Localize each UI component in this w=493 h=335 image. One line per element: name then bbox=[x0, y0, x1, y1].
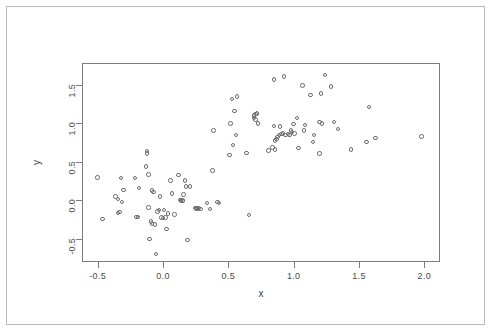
data-point bbox=[247, 213, 251, 217]
data-point bbox=[147, 237, 151, 241]
data-point bbox=[292, 131, 296, 135]
data-point bbox=[244, 151, 248, 155]
data-point bbox=[317, 151, 321, 155]
data-point bbox=[198, 207, 202, 211]
data-point bbox=[291, 122, 295, 126]
data-point bbox=[163, 215, 167, 219]
data-point bbox=[153, 222, 157, 226]
data-point bbox=[336, 127, 340, 131]
data-point bbox=[185, 238, 189, 242]
data-point bbox=[272, 77, 276, 81]
data-point bbox=[181, 192, 185, 196]
data-point bbox=[323, 73, 327, 77]
data-point bbox=[205, 201, 209, 205]
data-point bbox=[154, 252, 158, 256]
data-point bbox=[117, 210, 121, 214]
data-point bbox=[230, 97, 234, 101]
data-point bbox=[319, 91, 323, 95]
data-point bbox=[136, 215, 140, 219]
data-point bbox=[151, 190, 155, 194]
data-point bbox=[311, 140, 315, 144]
data-point bbox=[295, 116, 299, 120]
data-point bbox=[232, 109, 236, 113]
y-axis-tick-label: -0.5 bbox=[67, 238, 77, 255]
data-point bbox=[320, 121, 324, 125]
data-point bbox=[296, 146, 300, 150]
data-point bbox=[329, 84, 333, 88]
data-point bbox=[183, 178, 187, 182]
data-point bbox=[367, 105, 371, 109]
data-point bbox=[210, 168, 214, 172]
data-point bbox=[303, 123, 307, 127]
y-axis-label: y bbox=[31, 160, 42, 165]
x-axis-tick bbox=[163, 262, 164, 268]
data-point bbox=[176, 173, 180, 177]
data-point bbox=[272, 124, 276, 128]
data-point bbox=[95, 175, 99, 179]
data-point bbox=[157, 208, 161, 212]
data-point bbox=[235, 94, 239, 98]
data-point bbox=[302, 128, 306, 132]
data-point bbox=[180, 198, 184, 202]
data-point bbox=[364, 140, 368, 144]
data-point bbox=[211, 128, 215, 132]
data-point bbox=[373, 136, 377, 140]
data-point bbox=[282, 74, 286, 78]
data-point bbox=[300, 83, 304, 87]
data-point bbox=[146, 205, 150, 209]
x-axis-tick-label: 2.0 bbox=[418, 271, 431, 281]
data-point bbox=[170, 191, 174, 195]
data-point bbox=[227, 153, 231, 157]
data-point bbox=[144, 164, 148, 168]
data-point bbox=[164, 227, 168, 231]
data-point bbox=[256, 121, 260, 125]
data-point bbox=[146, 172, 150, 176]
data-point bbox=[158, 194, 162, 198]
data-point bbox=[217, 201, 221, 205]
data-point bbox=[100, 217, 104, 221]
x-axis-tick-label: -0.5 bbox=[89, 271, 106, 281]
data-point bbox=[172, 212, 176, 216]
x-axis-tick bbox=[359, 262, 360, 268]
data-point bbox=[273, 147, 277, 151]
data-point bbox=[349, 147, 353, 151]
x-axis-tick bbox=[228, 262, 229, 268]
data-point bbox=[234, 133, 238, 137]
x-axis-tick bbox=[424, 262, 425, 268]
y-axis-tick-label: 0.0 bbox=[67, 199, 77, 212]
data-point bbox=[137, 186, 141, 190]
y-axis-tick-label: 1.0 bbox=[67, 122, 77, 135]
x-axis-tick bbox=[98, 262, 99, 268]
x-axis-label: x bbox=[259, 288, 264, 299]
data-point bbox=[168, 178, 172, 182]
data-point bbox=[208, 207, 212, 211]
data-point bbox=[308, 93, 312, 97]
data-point bbox=[231, 143, 235, 147]
x-axis-tick-label: 0.5 bbox=[222, 271, 235, 281]
data-point bbox=[228, 121, 232, 125]
data-point bbox=[332, 120, 336, 124]
data-point bbox=[120, 200, 124, 204]
data-point bbox=[133, 176, 137, 180]
data-point bbox=[312, 133, 316, 137]
plot-panel bbox=[82, 63, 440, 262]
data-point bbox=[188, 184, 192, 188]
x-axis-tick-label: 0.0 bbox=[156, 271, 169, 281]
data-point bbox=[119, 176, 123, 180]
data-point bbox=[278, 124, 282, 128]
data-point bbox=[255, 111, 259, 115]
y-axis-tick-label: 0.5 bbox=[67, 161, 77, 174]
data-point bbox=[121, 188, 125, 192]
scatter-plot-figure: -0.50.00.51.01.52.0-0.50.00.51.01.5 x y bbox=[0, 0, 493, 335]
data-point bbox=[166, 211, 170, 215]
x-axis-tick-label: 1.5 bbox=[352, 271, 365, 281]
data-points-layer bbox=[83, 64, 439, 261]
x-axis-tick-label: 1.0 bbox=[287, 271, 300, 281]
data-point bbox=[419, 134, 423, 138]
x-axis-tick bbox=[294, 262, 295, 268]
y-axis-tick-label: 1.5 bbox=[67, 84, 77, 97]
